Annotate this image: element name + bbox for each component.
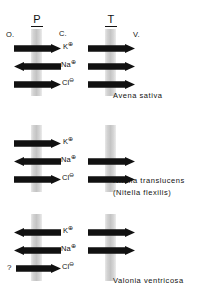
cytoplasm-label: C. <box>59 30 67 38</box>
plasmalemma-header-label: P <box>31 14 43 27</box>
species-caption-valonia: Valonia ventricosa <box>113 276 184 286</box>
arrow-plasmalemma-potassium-nitella <box>14 139 61 147</box>
outside-label: O. <box>6 31 14 39</box>
ion-label-chloride-avena: Cl⊖ <box>62 79 75 87</box>
arrow-tonoplast-sodium-avena <box>88 62 135 70</box>
ion-label-potassium-avena: K⊕ <box>63 43 73 51</box>
arrow-tonoplast-sodium-nitella <box>88 157 135 165</box>
arrow-plasmalemma-chloride-avena <box>14 80 61 88</box>
ion-label-sodium-avena: Na⊕ <box>61 61 76 69</box>
ion-label-sodium-nitella: Na⊕ <box>61 156 76 164</box>
arrow-tonoplast-sodium-valonia <box>88 246 135 254</box>
plasmalemma-header: P <box>27 14 47 27</box>
arrow-plasmalemma-potassium-avena <box>14 44 61 52</box>
ion-label-sodium-valonia: Na⊕ <box>61 245 76 253</box>
species-caption-avena: Avena sativa <box>113 91 162 101</box>
species-caption-nitella-synonym: (Nitella flexilis) <box>113 188 171 198</box>
ion-label-potassium-valonia: K⊕ <box>63 227 73 235</box>
ion-label-potassium-nitella: K⊕ <box>63 138 73 146</box>
tonoplast-header: T <box>101 14 121 27</box>
ion-label-chloride-valonia: Cl⊖ <box>62 263 75 271</box>
uncertain-marker-chloride-valonia: ? <box>7 264 11 272</box>
arrow-plasmalemma-chloride-nitella <box>14 175 61 183</box>
tonoplast-header-label: T <box>105 14 117 27</box>
ion-label-chloride-nitella: Cl⊖ <box>62 174 75 182</box>
arrow-plasmalemma-chloride-valonia <box>16 264 61 272</box>
arrow-tonoplast-potassium-avena <box>88 44 135 52</box>
arrow-plasmalemma-sodium-nitella <box>14 157 61 165</box>
arrow-plasmalemma-sodium-valonia <box>14 246 61 254</box>
ion-transport-diagram: P T O. C. V. K⊕ Na⊕ Cl⊖ Avena sativa <box>0 0 208 297</box>
vacuole-label: V. <box>133 31 140 39</box>
arrow-plasmalemma-potassium-valonia <box>14 228 61 236</box>
arrow-tonoplast-potassium-valonia <box>88 228 135 236</box>
arrow-tonoplast-chloride-avena <box>88 80 135 88</box>
arrow-plasmalemma-sodium-avena <box>14 62 61 70</box>
species-caption-nitella: Nitella translucens <box>113 176 185 186</box>
